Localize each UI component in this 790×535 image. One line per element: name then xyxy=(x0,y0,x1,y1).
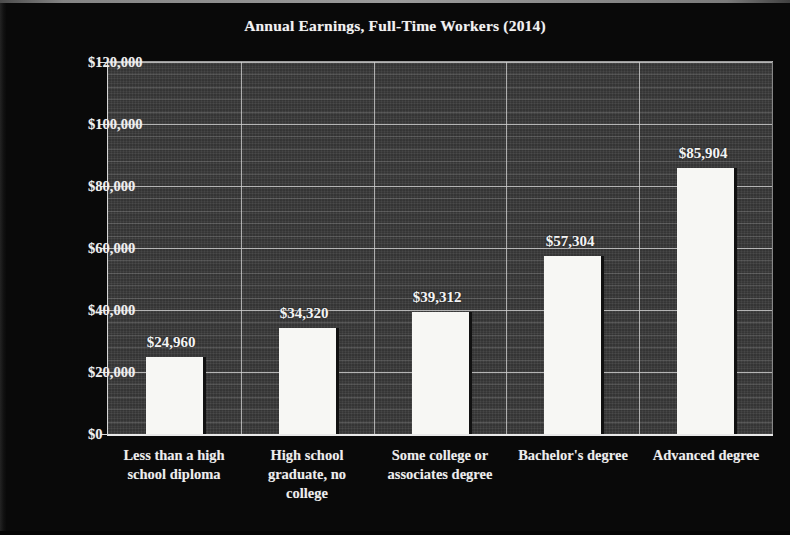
category-label-line: college xyxy=(228,484,387,503)
bar-value-label: $34,320 xyxy=(280,305,329,322)
gridline xyxy=(108,310,772,311)
scan-edge-bottom xyxy=(0,531,790,535)
category-separator xyxy=(241,62,242,434)
scan-edge-left xyxy=(0,3,6,535)
bar xyxy=(146,357,203,434)
bar xyxy=(544,256,601,434)
plot-area xyxy=(108,62,772,434)
bar-value-label: $39,312 xyxy=(413,289,462,306)
category-separator xyxy=(639,62,640,434)
gridline xyxy=(108,124,772,125)
plot-border-right xyxy=(772,61,773,435)
category-separator xyxy=(506,62,507,434)
category-label-line: Advanced degree xyxy=(627,446,786,465)
bar xyxy=(279,328,336,434)
category-label-line: associates degree xyxy=(361,465,520,484)
bar-value-label: $57,304 xyxy=(546,233,595,250)
chart-figure: Annual Earnings, Full-Time Workers (2014… xyxy=(0,0,790,535)
category-label: Advanced degree xyxy=(627,446,786,465)
bar-value-label: $85,904 xyxy=(679,145,728,162)
x-axis-line xyxy=(107,434,773,436)
bar xyxy=(412,312,469,434)
category-separator xyxy=(374,62,375,434)
gridline xyxy=(108,248,772,249)
chart-title: Annual Earnings, Full-Time Workers (2014… xyxy=(0,17,790,35)
bar xyxy=(677,168,734,434)
gridline xyxy=(108,62,772,63)
scan-edge-highlight xyxy=(0,0,790,3)
gridline xyxy=(108,186,772,187)
bar-value-label: $24,960 xyxy=(147,334,196,351)
